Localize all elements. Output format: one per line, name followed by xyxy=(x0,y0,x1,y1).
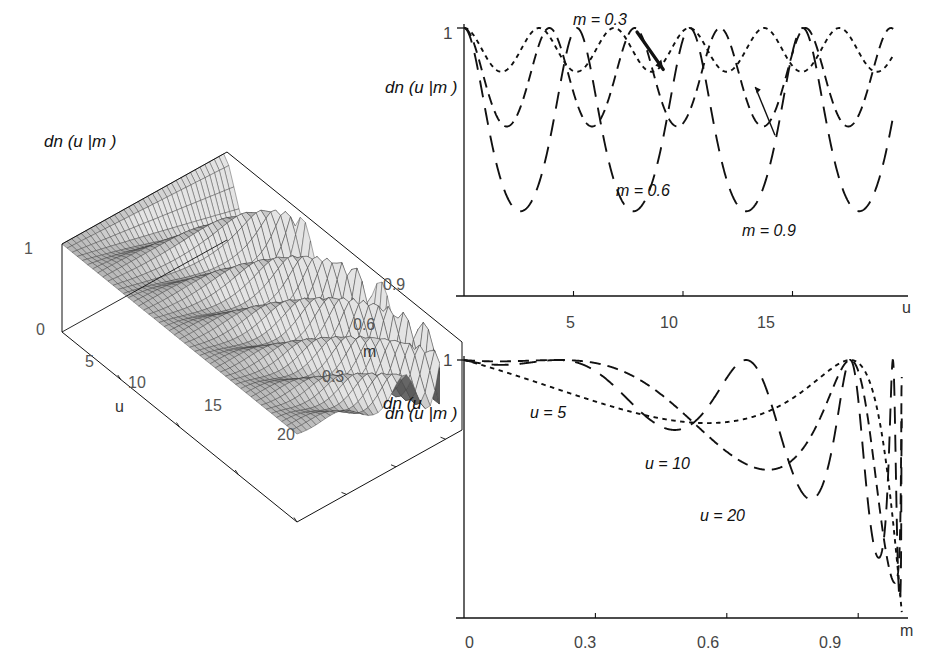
panel-dn-vs-m xyxy=(450,350,905,635)
surface-mtick-03: 0.3 xyxy=(322,369,344,385)
annotation-m-06: m = 0.6 xyxy=(616,183,670,199)
surface-xaxis-label: u xyxy=(115,399,124,415)
top-xtick-10: 10 xyxy=(660,315,678,331)
surface-ztick-1: 1 xyxy=(24,241,33,257)
surface-svg xyxy=(0,95,440,475)
surface-utick-15: 15 xyxy=(204,398,222,414)
bottom-xtick-09: 0.9 xyxy=(819,635,841,651)
surface-utick-20: 20 xyxy=(277,427,295,443)
figure-root: dn (u |m ) 1 0 5 10 15 20 u 0.9 0.6 0.3 … xyxy=(0,0,928,671)
surface-yaxis-label: m xyxy=(363,344,376,360)
panel-dn-vs-u xyxy=(450,18,905,318)
bottom-ytick-1: 1 xyxy=(443,352,452,369)
annotation-u-20: u = 20 xyxy=(700,508,745,524)
surface-zlabel: dn (u |m ) xyxy=(44,133,116,150)
bottom-xtick-03: 0.3 xyxy=(574,635,596,651)
top-ylabel: dn (u |m ) xyxy=(385,79,457,96)
panel-surface-plot xyxy=(0,95,440,475)
annotation-u-5: u = 5 xyxy=(530,405,566,421)
annotation-m-09: m = 0.9 xyxy=(742,223,796,239)
surface-utick-5: 5 xyxy=(85,354,94,370)
bottom-ylabel: dn (u |m ) xyxy=(385,405,457,422)
bottom-xtick-06: 0.6 xyxy=(697,635,719,651)
top-xtick-5: 5 xyxy=(566,315,575,331)
annotation-m-03: m = 0.3 xyxy=(573,12,627,28)
top-xlabel: u xyxy=(902,300,911,316)
surface-utick-10: 10 xyxy=(128,375,146,391)
top-ytick-1: 1 xyxy=(443,25,452,42)
dn-vs-u-svg xyxy=(450,18,905,318)
surface-ztick-0: 0 xyxy=(36,322,45,338)
annotation-u-10: u = 10 xyxy=(645,456,690,472)
bottom-xtick-0: 0 xyxy=(465,635,474,651)
surface-mtick-06: 0.6 xyxy=(353,317,375,333)
bottom-xlabel: m xyxy=(900,623,913,639)
surface-mtick-09: 0.9 xyxy=(383,277,405,293)
top-xtick-15: 15 xyxy=(757,315,775,331)
dn-vs-m-svg xyxy=(450,350,905,635)
